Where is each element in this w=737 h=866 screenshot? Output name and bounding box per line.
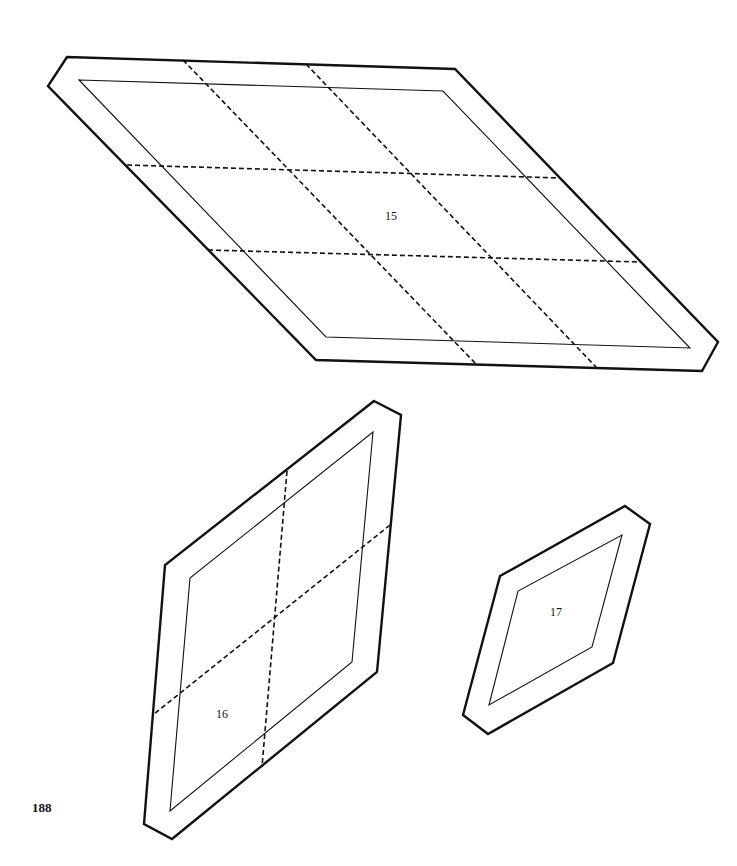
template-15-label: 15 [385,209,397,223]
template-15-cut-line-horizontal-2 [208,250,640,262]
pattern-page: 15 16 17 [0,0,737,866]
template-17-label: 17 [550,605,562,619]
page-number: 188 [32,800,52,816]
template-16-cut-line-horizontal [154,525,390,714]
template-17-outer-outline [463,506,650,734]
template-17-inner-outline [489,535,622,705]
template-15-cut-line-horizontal-1 [127,165,561,178]
template-16-label: 16 [216,707,228,721]
template-15-outer-outline [48,57,718,371]
template-15: 15 [48,57,718,371]
template-16-outer-outline [144,401,401,839]
template-16-cut-line-vertical [262,471,287,767]
template-16: 16 [144,401,401,839]
template-15-cut-line-diagonal-2 [306,64,596,367]
template-15-cut-line-diagonal-1 [183,60,476,364]
template-16-inner-outline [170,432,373,811]
template-17: 17 [463,506,650,734]
